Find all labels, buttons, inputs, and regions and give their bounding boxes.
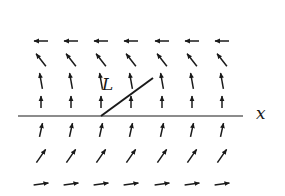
field-arrow-icon xyxy=(187,54,197,67)
field-arrow-icon xyxy=(157,54,167,67)
field-arrow-icon xyxy=(96,54,106,67)
field-arrow-icon xyxy=(191,73,194,89)
field-arrows xyxy=(34,41,230,185)
field-arrow-icon xyxy=(157,149,166,162)
field-arrow-icon xyxy=(215,183,230,185)
field-arrow-icon xyxy=(217,54,227,67)
field-arrow-icon xyxy=(70,123,73,137)
field-arrow-icon xyxy=(130,123,133,137)
field-arrow-icon xyxy=(66,54,76,67)
vector-field-diagram: L x xyxy=(0,0,285,196)
field-arrow-icon xyxy=(126,54,136,67)
field-arrow-icon xyxy=(126,149,135,162)
x-axis-label: x xyxy=(256,103,266,123)
field-arrow-icon xyxy=(221,123,224,137)
field-arrow-icon xyxy=(130,73,133,89)
field-arrow-icon xyxy=(185,183,200,185)
field-arrow-icon xyxy=(94,183,109,185)
field-arrow-icon xyxy=(124,183,139,185)
vector-field-svg: L x xyxy=(0,0,285,196)
field-arrow-icon xyxy=(70,73,73,89)
field-arrow-icon xyxy=(100,123,103,137)
field-arrow-icon xyxy=(36,54,46,67)
field-arrow-icon xyxy=(64,183,79,185)
line-label-L: L xyxy=(101,74,113,94)
field-arrow-icon xyxy=(161,73,164,89)
field-arrow-icon xyxy=(217,149,226,162)
field-arrow-icon xyxy=(40,123,43,137)
field-arrow-icon xyxy=(187,149,196,162)
field-arrow-icon xyxy=(36,149,45,162)
field-arrow-icon xyxy=(40,73,43,89)
field-arrow-icon xyxy=(191,123,194,137)
field-arrow-icon xyxy=(34,183,49,185)
field-arrow-icon xyxy=(66,149,75,162)
field-arrow-icon xyxy=(155,183,170,185)
field-arrow-icon xyxy=(221,73,224,89)
field-arrow-icon xyxy=(96,149,105,162)
field-arrow-icon xyxy=(161,123,164,137)
